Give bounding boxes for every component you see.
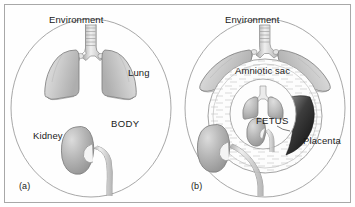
label-kidney: Kidney xyxy=(33,131,63,141)
label-environment-b: Environment xyxy=(225,15,279,25)
panel-a-artwork xyxy=(11,19,171,197)
diagram-artwork xyxy=(0,0,355,207)
maternal-kidney xyxy=(197,124,229,172)
lung-left-a xyxy=(45,50,79,99)
panel-b-artwork xyxy=(185,19,345,197)
panel-caption-a: (a) xyxy=(19,182,30,191)
label-body: BODY xyxy=(111,119,140,129)
label-placenta: Placenta xyxy=(303,136,341,146)
kidney-a xyxy=(61,126,93,174)
panel-caption-b: (b) xyxy=(191,182,202,191)
label-fetus: FETUS xyxy=(256,116,289,126)
figure-container: Environment Lung BODY Kidney (a) Environ… xyxy=(0,0,355,207)
label-amniotic-sac: Amniotic sac xyxy=(235,66,290,76)
label-environment-a: Environment xyxy=(49,15,103,25)
label-lung: Lung xyxy=(128,68,150,78)
